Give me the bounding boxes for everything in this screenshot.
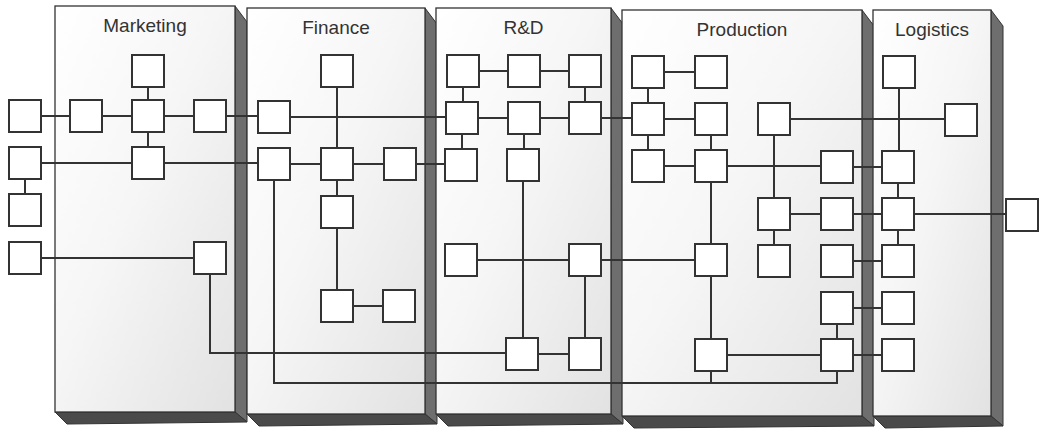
panel-side-finance [425, 8, 437, 424]
process-node-m6[interactable] [194, 242, 226, 274]
process-node-x1[interactable] [9, 100, 41, 132]
process-node-p1[interactable] [632, 56, 664, 88]
panel-side-logistics [991, 10, 1003, 426]
process-node-p7[interactable] [695, 150, 727, 182]
process-node-r4[interactable] [446, 102, 478, 134]
process-node-p10[interactable] [821, 198, 853, 230]
panel-bottom-marketing [55, 412, 247, 424]
process-node-f6[interactable] [321, 196, 353, 228]
process-node-l7[interactable] [882, 339, 914, 371]
process-node-r11[interactable] [506, 338, 538, 370]
process-node-p3[interactable] [632, 103, 664, 135]
process-node-r7[interactable] [445, 149, 477, 181]
process-node-x5[interactable] [1006, 199, 1038, 231]
process-node-f7[interactable] [321, 290, 353, 322]
process-node-p6[interactable] [632, 150, 664, 182]
department-label-marketing: Marketing [103, 15, 186, 36]
department-label-production: Production [697, 19, 788, 40]
process-node-l6[interactable] [882, 292, 914, 324]
process-node-r6[interactable] [569, 102, 601, 134]
process-node-l5[interactable] [882, 245, 914, 277]
process-node-r5[interactable] [508, 102, 540, 134]
process-node-r9[interactable] [445, 244, 477, 276]
process-node-p12[interactable] [758, 245, 790, 277]
process-node-f2[interactable] [258, 101, 290, 133]
process-node-f3[interactable] [258, 148, 290, 180]
process-node-m3[interactable] [132, 100, 164, 132]
process-node-m1[interactable] [132, 55, 164, 87]
process-node-p14[interactable] [821, 292, 853, 324]
process-node-p11[interactable] [695, 244, 727, 276]
panel-side-rd [611, 8, 623, 424]
panel-bottom-finance [247, 414, 437, 426]
department-label-logistics: Logistics [895, 19, 969, 40]
process-node-x2[interactable] [9, 147, 41, 179]
process-node-r2[interactable] [508, 55, 540, 87]
panel-side-marketing [235, 6, 247, 422]
panel-bottom-logistics [873, 416, 1003, 428]
process-node-x4[interactable] [9, 242, 41, 274]
process-node-r1[interactable] [447, 55, 479, 87]
process-node-p5[interactable] [758, 103, 790, 135]
process-node-r10[interactable] [569, 244, 601, 276]
process-network-diagram: MarketingFinanceR&DProductionLogistics [0, 0, 1045, 433]
process-node-f5[interactable] [384, 148, 416, 180]
process-node-p9[interactable] [758, 198, 790, 230]
process-node-r3[interactable] [569, 55, 601, 87]
process-node-l1[interactable] [883, 56, 915, 88]
process-node-f4[interactable] [321, 148, 353, 180]
process-node-p13[interactable] [821, 245, 853, 277]
panel-bottom-rd [436, 414, 623, 426]
process-node-m4[interactable] [194, 100, 226, 132]
process-node-p15[interactable] [695, 339, 727, 371]
process-node-p2[interactable] [695, 56, 727, 88]
department-label-finance: Finance [302, 17, 370, 38]
department-label-rd: R&D [503, 17, 543, 38]
process-node-p8[interactable] [821, 151, 853, 183]
process-node-m2[interactable] [70, 100, 102, 132]
process-node-f1[interactable] [321, 55, 353, 87]
process-node-p4[interactable] [695, 103, 727, 135]
process-node-r8[interactable] [507, 149, 539, 181]
panel-side-production [862, 10, 874, 426]
process-node-m5[interactable] [132, 147, 164, 179]
process-node-p16[interactable] [821, 339, 853, 371]
process-node-r12[interactable] [569, 338, 601, 370]
process-node-x3[interactable] [9, 194, 41, 226]
process-node-l2[interactable] [945, 104, 977, 136]
panel-bottom-production [622, 416, 874, 428]
process-node-f8[interactable] [383, 290, 415, 322]
process-node-l3[interactable] [882, 151, 914, 183]
process-node-l4[interactable] [882, 198, 914, 230]
